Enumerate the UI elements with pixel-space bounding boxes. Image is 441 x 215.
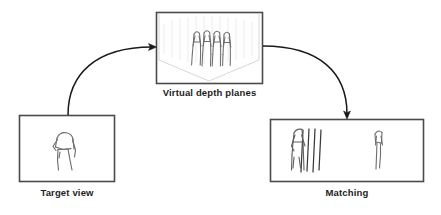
arrow-depth-planes-to-matching — [263, 46, 350, 119]
arrow-target-to-depth-planes-curve — [68, 47, 152, 115]
panel-target-view — [20, 116, 115, 182]
arrow-depth-planes-to-matching-curve — [263, 46, 347, 114]
diagram-figure: Virtual depth planes Target view Matchin… — [0, 0, 441, 215]
panel-virtual-depth-planes-border — [157, 13, 263, 84]
arrow-target-to-depth-planes — [68, 44, 157, 115]
panel-matching — [271, 120, 424, 182]
caption-virtual-depth-planes: Virtual depth planes — [156, 87, 263, 98]
panel-virtual-depth-planes — [157, 13, 263, 84]
caption-target-view: Target view — [19, 187, 115, 198]
caption-matching: Matching — [270, 187, 424, 198]
diagram-canvas — [0, 0, 441, 215]
